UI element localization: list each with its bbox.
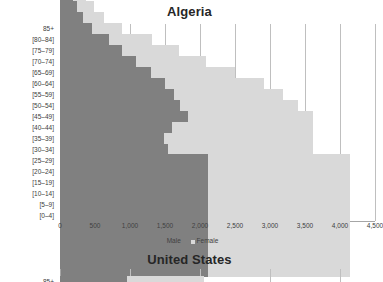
bar-rows-united-states [60,269,375,282]
bar-row [60,276,375,282]
legend-label-male: Male [167,237,181,244]
bar-segment-female [127,276,204,282]
legend-item-female: Female [191,238,219,245]
y-axis-tick-label: [75–79] [32,48,54,55]
chart-united-states: United States 85+ [0,252,379,282]
bar-segment-male [60,276,127,282]
y-axis-labels-algeria: 85+[80–84][75–79][70–74][65–69][60–64][5… [0,24,57,221]
chart-algeria: Algeria 85+[80–84][75–79][70–74][65–69][… [0,4,379,252]
y-axis-tick-label: [5–9] [40,202,54,209]
y-axis-tick-label: [15–19] [32,180,54,187]
female-swatch-icon [191,240,195,244]
y-axis-tick-label: [35–39] [32,136,54,143]
x-axis-tick-label: 0 [58,223,62,230]
y-axis-tick-label: [25–29] [32,158,54,165]
y-axis-tick-label: [45–49] [32,114,54,121]
legend-item-male: Male [161,238,181,245]
y-axis-tick-label: [0–4] [40,213,54,220]
y-axis-tick-label: [50–54] [32,103,54,110]
x-axis-tick-label: 1,500 [157,223,173,230]
x-axis-tick-label: 4,000 [332,223,348,230]
y-axis-tick-label: [70–74] [32,59,54,66]
legend-algeria: Male Female [0,238,379,245]
x-axis-labels-algeria: 05001,0001,5002,0002,5003,0003,5004,0004… [60,223,375,233]
y-axis-tick-label: [30–34] [32,147,54,154]
y-axis-tick-label: [55–59] [32,92,54,99]
x-axis-tick-label: 3,000 [262,223,278,230]
bar-rows-algeria [60,24,375,221]
y-axis-tick-label: [80–84] [32,37,54,44]
y-axis-tick-label: [40–44] [32,125,54,132]
y-axis-tick-label: [60–64] [32,81,54,88]
y-axis-tick-label: [65–69] [32,70,54,77]
y-axis-tick-label: 85+ [43,26,54,33]
male-swatch-icon [161,240,165,244]
x-axis-tick-label: 1,000 [122,223,138,230]
x-axis-tick-label: 2,000 [192,223,208,230]
plot-area-algeria [60,24,375,222]
gridline-4500 [375,24,376,221]
y-axis-tick-label: [10–14] [32,191,54,198]
x-axis-tick-label: 500 [90,223,101,230]
chart-title-united-states: United States [0,252,379,267]
y-axis-labels-united-states: 85+ [0,269,57,282]
x-axis-tick-label: 2,500 [227,223,243,230]
y-axis-tick-label: [20–24] [32,169,54,176]
plot-area-united-states [60,269,375,282]
x-axis-tick-label: 3,500 [297,223,313,230]
x-axis-tick-label: 4,500 [367,223,383,230]
legend-label-female: Female [197,237,219,244]
